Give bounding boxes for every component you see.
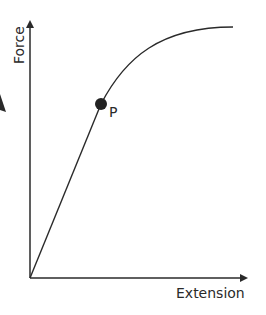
plastic-region-curve: [101, 27, 233, 104]
x-axis-label: Extension: [176, 285, 245, 301]
force-extension-diagram: P Force Extension: [0, 0, 266, 315]
point-p-marker: [95, 98, 107, 110]
point-p-label: P: [109, 104, 117, 120]
edge-artifact: [0, 94, 6, 112]
linear-region-line: [30, 104, 101, 278]
y-axis-label: Force: [11, 26, 27, 64]
